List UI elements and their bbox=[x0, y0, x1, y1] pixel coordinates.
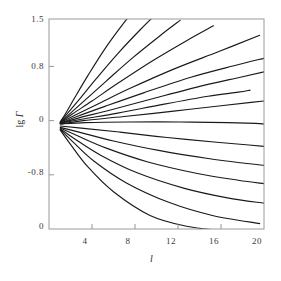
x-tick-label-1: 4 bbox=[77, 236, 93, 246]
x-tick-label-3: 12 bbox=[163, 236, 179, 246]
x-tick-label-5: 20 bbox=[249, 236, 265, 246]
x-axis-title: l bbox=[150, 253, 153, 264]
chart-figure: 1.5 0.8 0 -0.8 0 4 8 12 16 20 l lg Γ bbox=[0, 0, 281, 281]
y-tick-label-5: 0 bbox=[12, 221, 44, 231]
y-tick-label-1: 1.5 bbox=[12, 14, 44, 24]
y-tick-label-4: -0.8 bbox=[8, 167, 44, 177]
y-axis-title-prefix: lg bbox=[14, 117, 25, 127]
y-tick-label-2: 0.8 bbox=[12, 61, 44, 71]
plot-canvas bbox=[0, 0, 281, 281]
x-tick-label-2: 8 bbox=[120, 236, 136, 246]
y-axis-title: lg Γ bbox=[14, 98, 25, 142]
gamma-symbol: Γ bbox=[14, 112, 25, 118]
x-tick-label-4: 16 bbox=[206, 236, 222, 246]
